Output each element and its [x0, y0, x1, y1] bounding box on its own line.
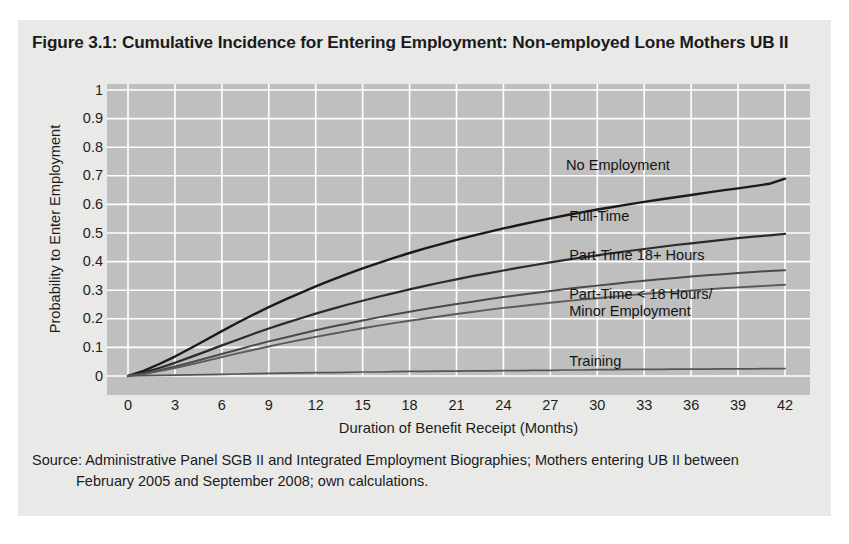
- x-tick-label: 21: [437, 398, 477, 413]
- y-tick-label: 0.1: [69, 340, 103, 355]
- plot-area: [107, 84, 810, 395]
- series-label: No Employment: [566, 157, 670, 173]
- series-label: Part-Time 18+ Hours: [569, 247, 704, 263]
- chart-area: Probability to Enter Employment 00.10.20…: [18, 66, 831, 441]
- x-tick-label: 12: [296, 398, 336, 413]
- figure-title: Figure 3.1: Cumulative Incidence for Ent…: [32, 32, 822, 53]
- y-tick-label: 0.9: [69, 111, 103, 126]
- x-tick-label: 18: [390, 398, 430, 413]
- y-tick-label: 0.8: [69, 140, 103, 155]
- series-label: Full-Time: [569, 208, 629, 224]
- gridlines: [107, 84, 810, 376]
- x-tick-label: 27: [530, 398, 570, 413]
- source-note: Source: Administrative Panel SGB II and …: [32, 450, 812, 492]
- x-tick-label: 36: [671, 398, 711, 413]
- y-tick-label: 1: [69, 83, 103, 98]
- x-tick-label: 39: [718, 398, 758, 413]
- y-tick-label: 0.5: [69, 226, 103, 241]
- x-axis-tick-labels: 03691215182124273033363942: [107, 398, 810, 420]
- y-tick-label: 0.3: [69, 283, 103, 298]
- series-label: Training: [569, 353, 621, 369]
- y-tick-label: 0.4: [69, 254, 103, 269]
- source-line-2: February 2005 and September 2008; own ca…: [32, 471, 812, 492]
- y-tick-label: 0: [69, 369, 103, 384]
- x-tick-label: 0: [108, 398, 148, 413]
- x-tick-label: 15: [343, 398, 383, 413]
- y-tick-label: 0.2: [69, 311, 103, 326]
- x-tick-label: 24: [483, 398, 523, 413]
- series-label: Part-Time < 18 Hours/Minor Employment: [569, 286, 712, 319]
- x-tick-label: 33: [624, 398, 664, 413]
- y-tick-label: 0.7: [69, 168, 103, 183]
- x-axis-title: Duration of Benefit Receipt (Months): [107, 420, 810, 436]
- x-tick-label: 30: [577, 398, 617, 413]
- x-tick-label: 6: [202, 398, 242, 413]
- x-tick-label: 9: [249, 398, 289, 413]
- figure-container: Figure 3.1: Cumulative Incidence for Ent…: [18, 20, 831, 516]
- source-line-1: Source: Administrative Panel SGB II and …: [32, 452, 739, 468]
- y-tick-label: 0.6: [69, 197, 103, 212]
- chart-svg: [107, 84, 810, 395]
- y-axis-title: Probability to Enter Employment: [47, 99, 63, 359]
- x-tick-label: 42: [765, 398, 805, 413]
- y-axis-tick-labels: 00.10.20.30.40.50.60.70.80.91: [63, 84, 103, 395]
- x-tick-label: 3: [155, 398, 195, 413]
